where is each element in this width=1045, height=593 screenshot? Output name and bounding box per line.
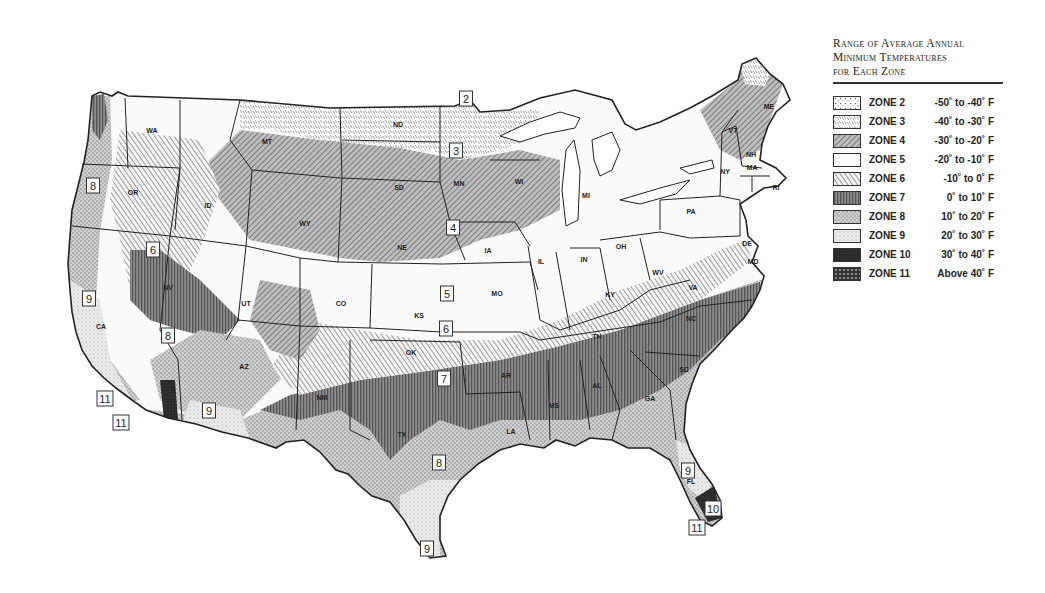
zone-tag: 10 [705,501,721,516]
legend-entry-z9: ZONE 920˚ to 30˚ F [833,226,1033,245]
legend-zone-name: ZONE 8 [869,211,924,222]
svg-text:9: 9 [424,543,430,555]
legend-swatch-z3 [833,115,861,129]
zone-tag: 11 [689,520,705,535]
legend-swatch-z6 [833,172,861,186]
legend-entries: ZONE 2-50˚ to -40˚ FZONE 3-40˚ to -30˚ F… [833,93,1033,283]
state-label-az: AZ [239,363,249,370]
state-label-mn: MN [454,180,465,187]
legend-zone-name: ZONE 11 [869,268,924,279]
state-label-ms: MS [549,402,560,409]
legend-zone-name: ZONE 6 [869,173,924,184]
zone-tag: 9 [203,403,216,418]
legend-zone-name: ZONE 10 [869,249,924,260]
state-label-de: DE [742,240,752,247]
legend-swatch-z2 [833,96,861,110]
legend-entry-z6: ZONE 6-10˚ to 0˚ F [833,169,1033,188]
zone-tag: 11 [97,391,113,406]
svg-text:9: 9 [86,293,92,305]
legend: Range of Average Annual Minimum Temperat… [833,36,1033,283]
state-label-wi: WI [515,178,524,185]
state-label-sc: SC [679,366,689,373]
legend-swatch-z10 [833,248,861,262]
legend-entry-z5: ZONE 5-20˚ to -10˚ F [833,150,1033,169]
svg-text:9: 9 [206,405,212,417]
svg-text:8: 8 [165,330,171,342]
state-label-md: MD [748,258,759,265]
zone-tag: 5 [441,286,454,301]
zone-tag: 8 [162,328,175,343]
zone-tag: 11 [113,415,129,430]
state-label-ga: GA [645,395,656,402]
legend-entry-z7: ZONE 70˚ to 10˚ F [833,188,1033,207]
zone-tag: 9 [421,541,434,556]
legend-zone-range: -50˚ to -40˚ F [924,97,994,108]
zone-tag: 2 [460,91,473,106]
zone-tag: 7 [438,371,451,386]
state-label-ia: IA [485,247,492,254]
legend-zone-range: 30˚ to 40˚ F [924,249,994,260]
state-label-nm: NM [317,394,328,401]
svg-text:6: 6 [150,244,156,256]
legend-entry-z10: ZONE 1030˚ to 40˚ F [833,245,1033,264]
state-label-co: CO [336,300,347,307]
legend-entry-z11: ZONE 11Above 40˚ F [833,264,1033,283]
state-label-la: LA [506,428,515,435]
state-label-mt: MT [262,138,273,145]
svg-text:9: 9 [685,465,691,477]
legend-swatch-z11 [833,267,861,281]
legend-swatch-z8 [833,210,861,224]
zone-tag: 6 [147,242,160,257]
legend-zone-name: ZONE 5 [869,154,924,165]
legend-entry-z8: ZONE 810˚ to 20˚ F [833,207,1033,226]
zone-tag: 8 [433,455,446,470]
state-label-me: ME [764,103,775,110]
legend-zone-range: 10˚ to 20˚ F [924,211,994,222]
state-label-nh: NH [746,151,756,158]
zone-tag: 9 [682,463,695,478]
state-label-wy: WY [299,220,311,227]
legend-swatch-z9 [833,229,861,243]
state-label-ut: UT [241,300,251,307]
state-label-wv: WV [652,269,664,276]
legend-zone-range: -30˚ to -20˚ F [924,135,994,146]
state-label-ky: KY [605,291,615,298]
svg-text:5: 5 [444,288,450,300]
state-label-vt: VT [729,127,739,134]
state-label-ar: AR [501,372,511,379]
legend-zone-range: -20˚ to -10˚ F [924,154,994,165]
state-label-mo: MO [491,290,503,297]
state-label-fl: FL [687,478,696,485]
legend-entry-z3: ZONE 3-40˚ to -30˚ F [833,112,1033,131]
legend-zone-range: Above 40˚ F [924,268,994,279]
state-label-il: IL [538,258,545,265]
svg-text:10: 10 [707,503,719,515]
svg-text:4: 4 [450,222,456,234]
usa-map-graphic: WAORIDMTWYNVUTCOCAAZNMNDSDNEKSOKTXMNIAMO… [0,0,830,593]
svg-text:8: 8 [90,180,96,192]
legend-zone-name: ZONE 3 [869,116,924,127]
svg-text:6: 6 [443,323,449,335]
legend-swatch-z5 [833,153,861,167]
state-label-ks: KS [414,312,424,319]
state-label-in: IN [581,256,588,263]
state-label-nd: ND [393,121,403,128]
state-label-ne: NE [397,244,407,251]
state-label-nv: NV [163,284,173,291]
state-label-ny: NY [720,168,730,175]
legend-swatch-z7 [833,191,861,205]
legend-entry-z2: ZONE 2-50˚ to -40˚ F [833,93,1033,112]
legend-zone-range: -40˚ to -30˚ F [924,116,994,127]
legend-zone-name: ZONE 2 [869,97,924,108]
legend-title-line-3: for Each Zone [833,64,1033,78]
legend-divider [833,82,1003,84]
state-label-pa: PA [686,208,695,215]
svg-text:3: 3 [453,145,459,157]
state-label-ri: RI [773,184,780,191]
legend-swatch-z4 [833,134,861,148]
legend-zone-range: 0˚ to 10˚ F [924,192,994,203]
state-label-mi: MI [582,192,590,199]
state-label-ca: CA [96,323,106,330]
zone-tag: 3 [450,143,463,158]
legend-entry-z4: ZONE 4-30˚ to -20˚ F [833,131,1033,150]
